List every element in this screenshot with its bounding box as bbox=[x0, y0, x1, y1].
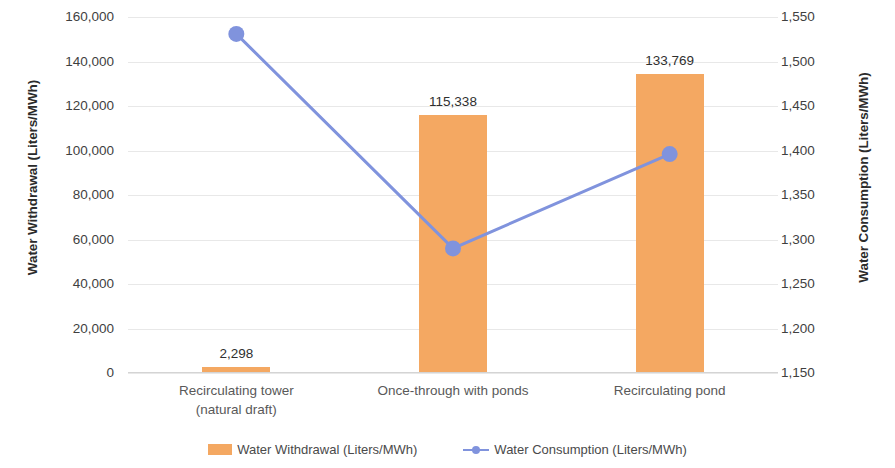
y-axis-right-tick-label: 1,450 bbox=[781, 99, 815, 113]
line-series bbox=[128, 17, 778, 373]
y-axis-right-ticks: 1,1501,2001,2501,3001,3501,4001,4501,500… bbox=[775, 0, 849, 468]
legend-label-consumption: Water Consumption (Liters/MWh) bbox=[494, 442, 686, 457]
y-axis-right-title: Water Consumption (Liters/MWh) bbox=[856, 28, 871, 328]
y-axis-right-tick-label: 1,300 bbox=[781, 233, 815, 247]
line-path bbox=[236, 34, 669, 248]
y-axis-right-tick-label: 1,250 bbox=[781, 277, 815, 291]
y-axis-right-tick-label: 1,200 bbox=[781, 322, 815, 336]
y-axis-left-tick-label: 80,000 bbox=[73, 188, 114, 202]
line-marker[interactable] bbox=[445, 240, 461, 256]
plot-area: 2,298115,338133,769 bbox=[128, 17, 778, 373]
y-axis-left-tick-label: 160,000 bbox=[65, 10, 114, 24]
y-axis-left-tick-label: 0 bbox=[106, 366, 114, 380]
line-marker[interactable] bbox=[662, 146, 678, 162]
category-label-line: Recirculating pond bbox=[555, 381, 785, 400]
y-axis-right-tick-label: 1,500 bbox=[781, 55, 815, 69]
y-axis-left-ticks: 020,00040,00060,00080,000100,000120,0001… bbox=[46, 0, 120, 468]
y-axis-right-tick-label: 1,400 bbox=[781, 144, 815, 158]
legend-label-withdrawal: Water Withdrawal (Liters/MWh) bbox=[237, 442, 417, 457]
y-axis-left-tick-label: 60,000 bbox=[73, 233, 114, 247]
line-marker-swatch-icon bbox=[463, 444, 489, 455]
legend-item-withdrawal[interactable]: Water Withdrawal (Liters/MWh) bbox=[208, 442, 417, 457]
bar-value-label: 133,769 bbox=[645, 53, 694, 68]
category-label-line: (natural draft) bbox=[121, 400, 351, 419]
x-axis-category-label: Once-through with ponds bbox=[338, 381, 568, 400]
bar-value-label: 2,298 bbox=[219, 346, 253, 361]
y-axis-left-title: Water Withdrawal (Liters/MWh) bbox=[25, 28, 40, 328]
category-label-line: Recirculating tower bbox=[121, 381, 351, 400]
x-axis-category-label: Recirculating tower(natural draft) bbox=[121, 381, 351, 419]
y-axis-right-tick-label: 1,150 bbox=[781, 366, 815, 380]
line-marker[interactable] bbox=[228, 26, 244, 42]
y-axis-left-tick-label: 20,000 bbox=[73, 322, 114, 336]
y-axis-left-tick-label: 100,000 bbox=[65, 144, 114, 158]
y-axis-right-tick-label: 1,350 bbox=[781, 188, 815, 202]
x-axis-category-label: Recirculating pond bbox=[555, 381, 785, 400]
y-axis-left-tick-label: 120,000 bbox=[65, 99, 114, 113]
combo-chart: Water Withdrawal (Liters/MWh) Water Cons… bbox=[0, 0, 895, 468]
y-axis-right-tick-label: 1,550 bbox=[781, 10, 815, 24]
bar-swatch-icon bbox=[208, 444, 232, 455]
chart-legend: Water Withdrawal (Liters/MWh) Water Cons… bbox=[0, 442, 895, 457]
bar-value-label: 115,338 bbox=[429, 94, 477, 109]
y-axis-left-tick-label: 40,000 bbox=[73, 277, 114, 291]
y-axis-left-tick-label: 140,000 bbox=[65, 55, 114, 69]
category-label-line: Once-through with ponds bbox=[338, 381, 568, 400]
x-axis-category-labels: Recirculating tower(natural draft)Once-t… bbox=[128, 381, 778, 427]
legend-item-consumption[interactable]: Water Consumption (Liters/MWh) bbox=[463, 442, 686, 457]
gridline bbox=[128, 373, 778, 374]
